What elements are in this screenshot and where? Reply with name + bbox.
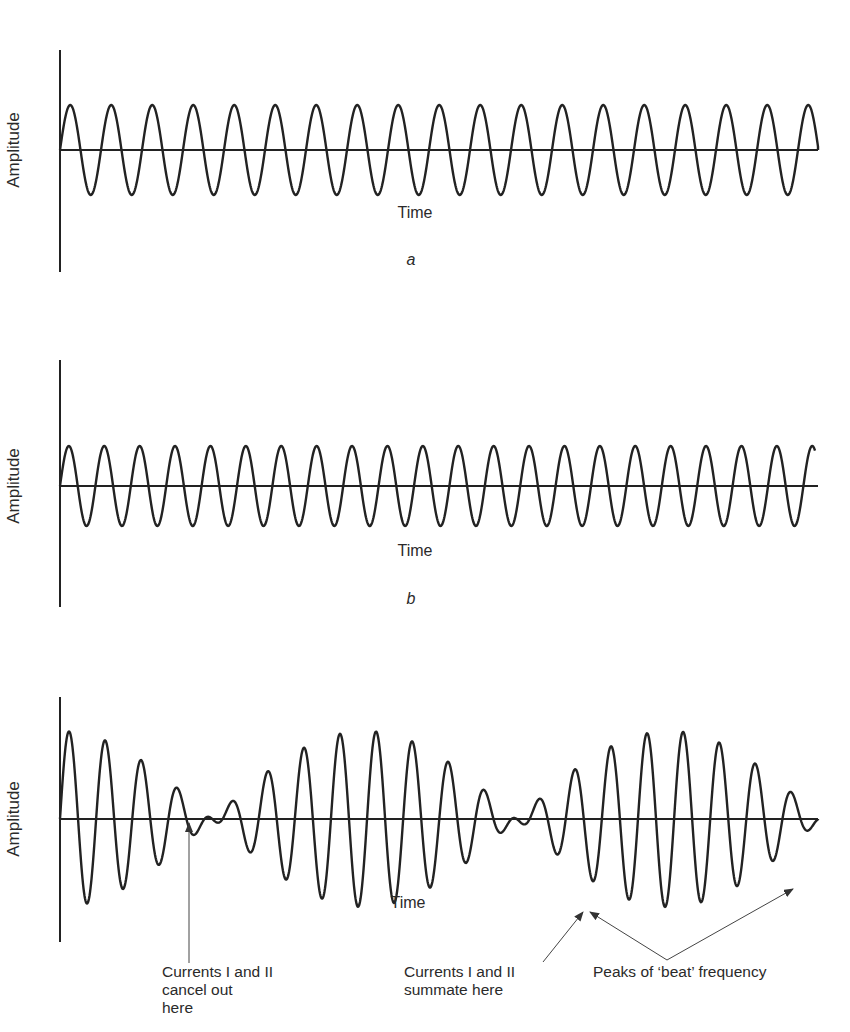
- x-axis-label-c: Time: [391, 894, 426, 911]
- panel-c: Amplitude Time: [4, 697, 818, 942]
- annotation-labels: Currents I and IIcancel outhereCurrents …: [162, 963, 767, 1016]
- interferential-current-diagram: Amplitude Time a Amplitude Time b Amplit…: [0, 0, 850, 1032]
- x-axis-label-b: Time: [398, 542, 433, 559]
- panel-label-b: b: [407, 590, 416, 607]
- y-axis-label-a: Amplitude: [4, 112, 23, 188]
- panel-label-a: a: [407, 251, 416, 268]
- annotation-beat: Peaks of ‘beat’ frequency: [593, 963, 767, 980]
- annotation-arrow: [590, 912, 667, 960]
- annotation-cancel: Currents I and IIcancel outhere: [162, 963, 273, 1016]
- panel-b: Amplitude Time b: [4, 360, 818, 607]
- annotation-arrow: [543, 912, 583, 962]
- panel-a: Amplitude Time a: [4, 50, 818, 272]
- annotation-summate: Currents I and IIsummate here: [404, 963, 515, 998]
- x-axis-label-a: Time: [398, 204, 433, 221]
- y-axis-label-b: Amplitude: [4, 448, 23, 524]
- y-axis-label-c: Amplitude: [4, 781, 23, 857]
- annotation-arrow: [667, 889, 793, 960]
